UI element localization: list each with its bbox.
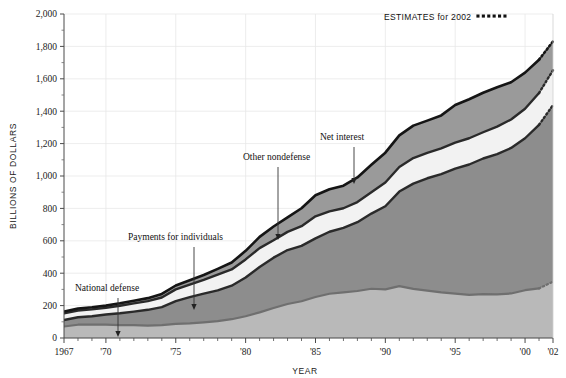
x-tick-label: '90 bbox=[380, 347, 391, 357]
y-tick-label: 0 bbox=[52, 333, 57, 343]
y-tick-label: 1,600 bbox=[36, 74, 58, 84]
x-tick-label: '70 bbox=[100, 347, 111, 357]
y-tick-label: 200 bbox=[43, 301, 58, 311]
annotation-label: Net interest bbox=[320, 132, 364, 142]
legend-dot bbox=[503, 15, 506, 18]
y-tick-label: 2,000 bbox=[36, 9, 58, 19]
annotation-label: Other nondefense bbox=[243, 152, 310, 162]
y-tick-label: 600 bbox=[43, 236, 58, 246]
legend-dot bbox=[493, 15, 496, 18]
y-tick-label: 400 bbox=[43, 269, 58, 279]
y-tick-label: 1,800 bbox=[36, 42, 58, 52]
x-axis-title: YEAR bbox=[292, 366, 318, 376]
x-tick-label: '95 bbox=[450, 347, 461, 357]
annotation-label: Payments for individuals bbox=[128, 232, 223, 242]
y-tick-label: 1,000 bbox=[36, 171, 58, 181]
legend-dot bbox=[487, 15, 490, 18]
estimates-legend-label: ESTIMATES for 2002 bbox=[384, 12, 471, 22]
chart-canvas: 02004006008001,0001,2001,4001,6001,8002,… bbox=[0, 0, 566, 378]
y-axis-title: BILLIONS OF DOLLARS bbox=[8, 123, 18, 229]
annotation-label: National defense bbox=[75, 283, 139, 293]
x-tick-label: '80 bbox=[240, 347, 251, 357]
x-tick-label: '75 bbox=[170, 347, 181, 357]
x-tick-label: '02 bbox=[547, 347, 558, 357]
y-tick-label: 1,200 bbox=[36, 139, 58, 149]
legend-dot bbox=[498, 15, 501, 18]
y-tick-label: 800 bbox=[43, 204, 58, 214]
legend-dot bbox=[476, 15, 479, 18]
legend-dot bbox=[482, 15, 485, 18]
x-tick-label: '85 bbox=[310, 347, 321, 357]
x-tick-label: 1967 bbox=[55, 347, 74, 357]
x-tick-label: '00 bbox=[519, 347, 530, 357]
stacked-area-chart: 02004006008001,0001,2001,4001,6001,8002,… bbox=[0, 0, 566, 378]
y-tick-label: 1,400 bbox=[36, 107, 58, 117]
